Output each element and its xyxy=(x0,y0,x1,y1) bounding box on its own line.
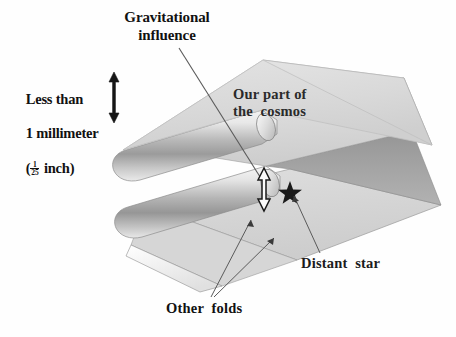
thickness-unit: inch) xyxy=(40,160,74,176)
fraction-denominator: 25 xyxy=(30,169,39,177)
thickness-line-2: 1 millimeter xyxy=(26,125,99,141)
label-gravitational-influence: Gravitational influence xyxy=(101,9,233,44)
thickness-line-1: Less than xyxy=(26,91,83,107)
label-thickness: Less than 1 millimeter (125 inch) xyxy=(12,74,124,195)
extra-dimensions-diagram: Gravitational influence Less than 1 mill… xyxy=(0,0,456,337)
thickness-fraction: 125 xyxy=(30,161,39,177)
label-other-folds: Other folds xyxy=(166,300,242,317)
label-distant-star: Distant star xyxy=(301,255,380,272)
label-our-part-of-cosmos: Our part of the cosmos xyxy=(233,86,363,120)
